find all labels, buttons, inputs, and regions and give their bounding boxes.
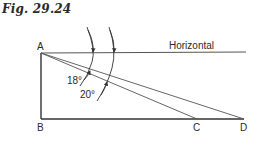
horizontal-label: Horizontal — [169, 40, 214, 51]
point-label-b: B — [37, 122, 44, 133]
point-label-c: C — [193, 122, 200, 133]
horizontal-line — [41, 52, 246, 53]
point-label-a: A — [37, 41, 44, 52]
point-label-d: D — [240, 122, 247, 133]
line-ad — [41, 53, 244, 119]
trigonometry-diagram: A B C D Horizontal 18° 20° — [0, 0, 259, 143]
angle-label-20: 20° — [80, 89, 95, 100]
line-ac — [41, 53, 197, 119]
angle-arc-20 — [97, 27, 114, 101]
angle-label-18: 18° — [67, 75, 82, 86]
